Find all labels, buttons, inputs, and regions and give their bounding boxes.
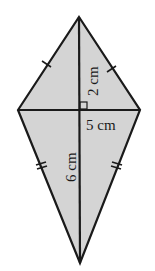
kite-figure: 2 cm 5 cm 6 cm [0,0,155,271]
label-5cm: 5 cm [86,117,116,133]
kite-diagram: 2 cm 5 cm 6 cm [0,0,155,271]
label-6cm: 6 cm [63,152,79,182]
label-2cm: 2 cm [85,66,101,96]
vertical-diagonal [79,17,80,263]
